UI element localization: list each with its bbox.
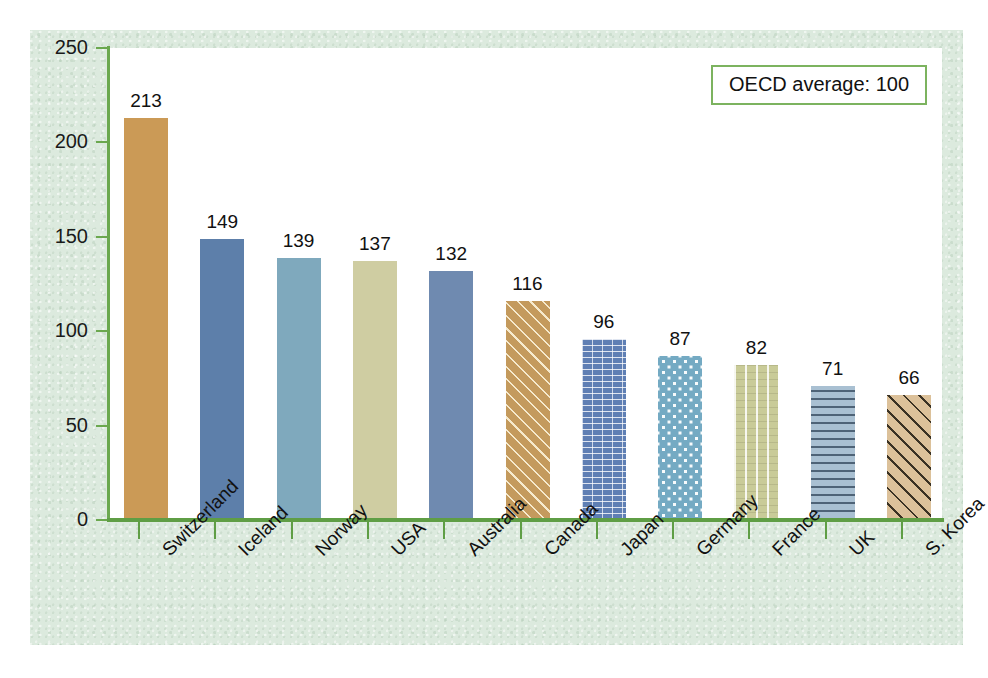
bar-uk [811,386,855,520]
x-tick-mark [901,522,903,539]
y-tick-label: 0 [18,509,88,529]
x-tick-mark [214,522,216,539]
bar-value-label: 66 [874,368,944,387]
bar-value-label: 139 [264,231,334,250]
y-axis-ticks: 050100150200250 [0,0,108,678]
bar-japan [582,339,626,520]
legend-label: OECD average: 100 [729,73,909,95]
bar-s-korea [887,395,931,520]
x-tick-mark [672,522,674,539]
bar-value-label: 132 [416,244,486,263]
chart-figure: 050100150200250 213Switzerland149Iceland… [0,0,988,678]
y-tick-label: 100 [18,320,88,340]
x-tick-mark [367,522,369,539]
bar-value-label: 96 [569,312,639,331]
x-tick-mark [825,522,827,539]
bar-iceland [200,239,244,520]
bar-value-label: 82 [721,338,791,357]
x-tick-mark [748,522,750,539]
y-axis-line [107,46,110,522]
x-tick-mark [443,522,445,539]
legend-box: OECD average: 100 [711,65,927,105]
bar-australia [429,271,473,520]
bar-value-label: 137 [340,234,410,253]
y-tick-label: 50 [18,415,88,435]
bar-norway [277,258,321,520]
y-tick-label: 250 [18,37,88,57]
bar-germany [658,356,702,520]
bar-usa [353,261,397,520]
x-tick-mark [520,522,522,539]
x-tick-mark [596,522,598,539]
y-tick-label: 150 [18,226,88,246]
x-tick-mark [291,522,293,539]
bar-value-label: 213 [111,91,181,110]
bar-value-label: 87 [645,329,715,348]
bar-canada [506,301,550,520]
bar-switzerland [124,118,168,520]
x-tick-mark [138,522,140,539]
bar-value-label: 149 [187,212,257,231]
bar-value-label: 116 [493,274,563,293]
bar-value-label: 71 [798,359,868,378]
y-tick-label: 200 [18,131,88,151]
